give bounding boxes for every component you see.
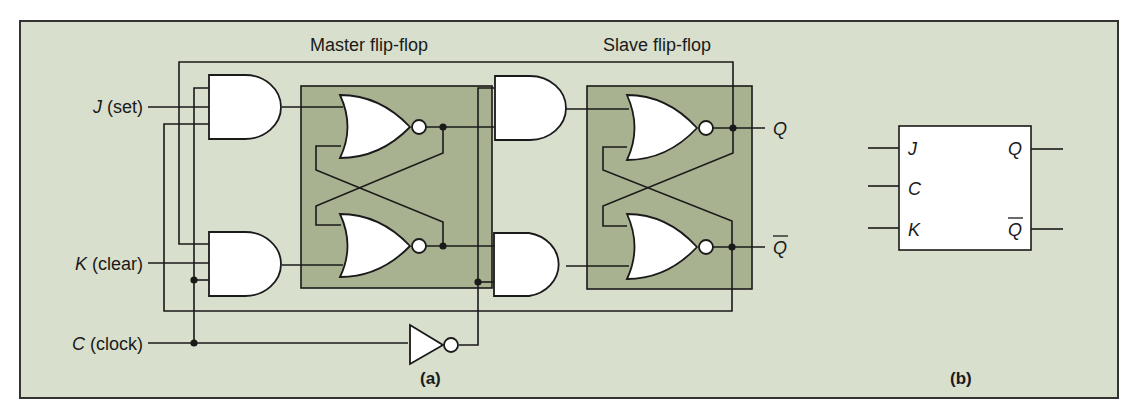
block-qbar-label: Q <box>1008 220 1022 240</box>
and-gate-slave-top <box>495 76 566 140</box>
nor-bubble <box>699 240 713 254</box>
nor-bubble <box>699 121 713 135</box>
q-output-label: Q <box>773 119 787 139</box>
and-gate-k <box>209 232 281 296</box>
not-bubble <box>444 338 458 352</box>
c-input-label: C (clock) <box>72 334 143 354</box>
block-k-label: K <box>908 220 921 240</box>
block-q-label: Q <box>1008 139 1022 159</box>
slave-flipflop-title: Slave flip-flop <box>603 35 711 55</box>
and-gate-j <box>209 75 281 139</box>
figure-canvas: Master flip-flop Slave flip-flop J (set)… <box>0 0 1139 420</box>
and-gate-slave-bottom <box>494 233 559 296</box>
k-input-label: K (clear) <box>75 254 143 274</box>
master-flipflop-title: Master flip-flop <box>310 35 428 55</box>
jk-flip-flop-figure: Master flip-flop Slave flip-flop J (set)… <box>0 0 1139 420</box>
nor-bubble <box>412 239 426 253</box>
panel-b-label: (b) <box>950 369 972 388</box>
block-j-label: J <box>907 139 918 159</box>
qbar-output-label: Q <box>773 238 787 258</box>
j-input-label: J (set) <box>92 97 143 117</box>
panel-a-label: (a) <box>420 369 441 388</box>
block-c-label: C <box>908 179 922 199</box>
nor-bubble <box>412 120 426 134</box>
